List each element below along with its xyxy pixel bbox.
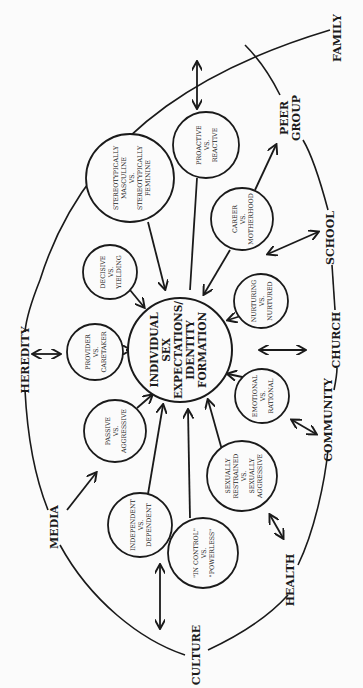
svg-text:VS.: VS.	[200, 548, 207, 560]
label-culture: CULTURE	[190, 625, 203, 686]
svg-text:"POWERLESS": "POWERLESS"	[208, 529, 215, 577]
svg-text:VS.: VS.	[128, 173, 135, 185]
svg-text:NURTURED: NURTURED	[266, 281, 273, 320]
node-provider-caretaker: PROVIDER VS. CARETAKER	[67, 324, 123, 380]
svg-text:"IN CONTROL": "IN CONTROL"	[192, 528, 199, 578]
svg-text:VS.: VS.	[92, 347, 99, 359]
svg-text:CAREER: CAREER	[231, 205, 238, 233]
svg-text:FEMININE: FEMININE	[144, 160, 151, 196]
svg-text:SEX: SEX	[160, 337, 172, 362]
svg-text:REACTIVE: REACTIVE	[211, 127, 218, 162]
center-node: INDIVIDUAL SEX EXPECTATIONS/ IDENTITY FO…	[128, 298, 232, 402]
node-nurturing-nurtured: NURTURING VS. NURTURED	[234, 274, 288, 328]
svg-text:SEXUALLY: SEXUALLY	[224, 458, 231, 494]
node-stereotypical: STEREOTYPICALLY MASCULINE VS. STEREOTYPI…	[86, 134, 174, 222]
svg-text:NURTURING: NURTURING	[250, 280, 257, 323]
node-independent-dependent: INDEPENDENT VS. DEPENDENT	[108, 493, 172, 557]
svg-text:STEREOTYPICALLY: STEREOTYPICALLY	[136, 145, 143, 210]
svg-text:AGGRESSIVE: AGGRESSIVE	[256, 454, 263, 499]
svg-text:VS.: VS.	[137, 520, 144, 532]
svg-text:PROACTIVE: PROACTIVE	[195, 125, 202, 165]
sex-identity-diagram: FAMILY PEER GROUP SCHOOL CHURCH COMMUNIT…	[0, 0, 363, 688]
label-heredity: HEREDITY	[19, 326, 32, 393]
svg-text:RESTRAINED: RESTRAINED	[232, 454, 239, 499]
svg-text:PASSIVE: PASSIVE	[104, 416, 111, 445]
label-church: CHURCH	[330, 311, 343, 368]
svg-text:VS.: VS.	[203, 140, 210, 152]
svg-text:VS.: VS.	[239, 214, 246, 226]
svg-text:STEREOTYPICALLY: STEREOTYPICALLY	[112, 145, 119, 210]
node-in-control-powerless: "IN CONTROL" VS. "POWERLESS"	[168, 518, 238, 588]
svg-text:DEPENDENT: DEPENDENT	[145, 503, 152, 547]
node-passive-aggressive: PASSIVE VS. AGGRESSIVE	[84, 400, 146, 462]
node-career-motherhood: CAREER VS. MOTHERHOOD	[211, 188, 273, 250]
node-decisive-yielding: DECISIVE VS. YIELDING	[83, 245, 137, 299]
svg-text:YIELDING: YIELDING	[115, 255, 122, 290]
svg-text:AGGRESSIVE: AGGRESSIVE	[120, 409, 127, 454]
svg-text:EMOTIONAL: EMOTIONAL	[251, 374, 258, 417]
svg-text:CARETAKER: CARETAKER	[100, 331, 107, 372]
svg-text:PROVIDER: PROVIDER	[84, 334, 91, 370]
svg-text:VS.: VS.	[112, 426, 119, 438]
svg-text:VS.: VS.	[107, 267, 114, 279]
svg-text:VS.: VS.	[240, 471, 247, 483]
svg-text:VS.: VS.	[259, 391, 266, 403]
svg-text:IDENTITY: IDENTITY	[184, 320, 196, 380]
svg-text:INDIVIDUAL: INDIVIDUAL	[148, 312, 160, 388]
label-family: FAMILY	[331, 14, 344, 62]
node-emotional-rational: EMOTIONAL VS. RATIONAL	[235, 369, 289, 423]
node-proactive-reactive: PROACTIVE VS. REACTIVE	[173, 112, 239, 178]
label-media: MEDIA	[48, 505, 61, 549]
svg-text:FORMATION: FORMATION	[196, 312, 208, 388]
svg-text:MASCULINE: MASCULINE	[120, 156, 127, 199]
label-health: HEALTH	[284, 554, 297, 607]
label-group: GROUP	[290, 95, 303, 141]
svg-text:SEXUALLY: SEXUALLY	[248, 458, 255, 494]
svg-text:EXPECTATIONS/: EXPECTATIONS/	[172, 301, 184, 399]
svg-text:INDEPENDENT: INDEPENDENT	[129, 499, 136, 551]
node-sexually-restrained-aggressive: SEXUALLY RESTRAINED VS. SEXUALLY AGGRESS…	[207, 441, 277, 511]
svg-text:RATIONAL: RATIONAL	[267, 378, 274, 414]
svg-text:MOTHERHOOD: MOTHERHOOD	[247, 193, 254, 245]
label-community: COMMUNITY	[322, 378, 335, 462]
svg-text:DECISIVE: DECISIVE	[99, 255, 106, 288]
label-school: SCHOOL	[324, 211, 337, 265]
svg-text:VS.: VS.	[258, 296, 265, 308]
